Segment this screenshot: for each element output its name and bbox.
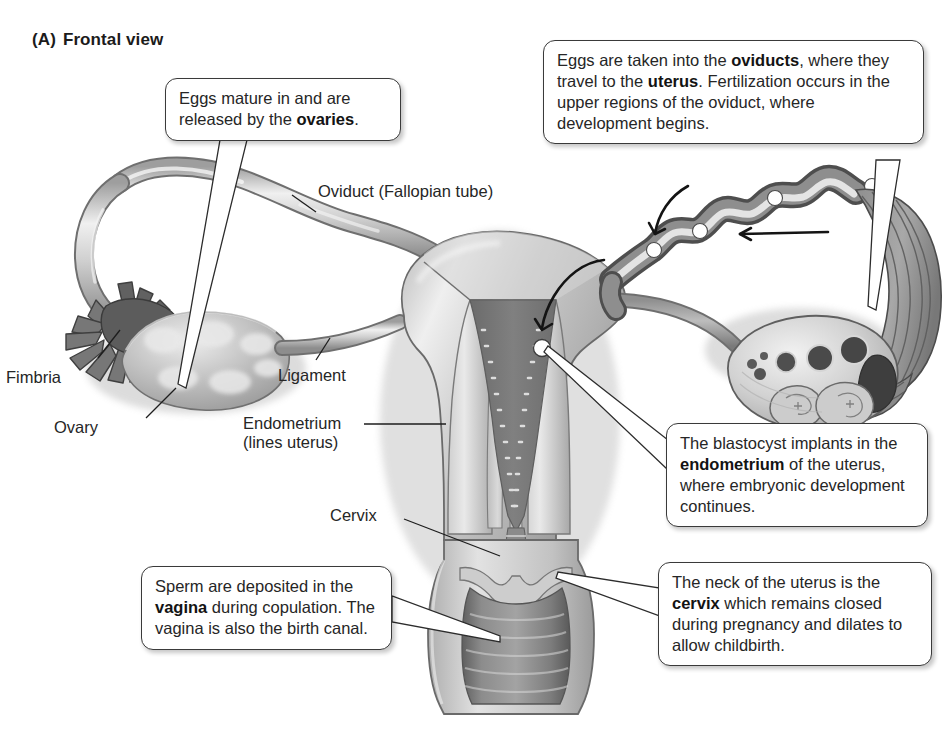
panel-title-text: Frontal view — [63, 30, 163, 49]
callout-vagina-text: Sperm are deposited in the vagina during… — [155, 577, 375, 637]
panel-title: (A)Frontal view — [32, 30, 163, 50]
right-ligament — [608, 300, 736, 346]
left-ligament — [282, 322, 400, 348]
label-fimbria: Fimbria — [6, 368, 61, 387]
ovum-marker — [647, 243, 662, 258]
label-ligament: Ligament — [278, 366, 346, 385]
panel-letter: (A) — [32, 30, 56, 49]
callout-oviducts-text: Eggs are taken into the oviducts, where … — [557, 51, 890, 132]
arrow-straight-left — [740, 232, 828, 234]
label-ovary: Ovary — [54, 418, 98, 437]
callout-blastocyst: The blastocyst implants in the endometri… — [666, 423, 928, 527]
label-cervix: Cervix — [330, 506, 377, 525]
callout-cervix-text: The neck of the uterus is the cervix whi… — [672, 573, 902, 654]
ovum-marker — [768, 191, 783, 206]
callout-ovaries: Eggs mature in and are released by the o… — [165, 78, 401, 141]
label-endometrium: Endometrium (lines uterus) — [243, 414, 368, 453]
callout-vagina: Sperm are deposited in the vagina during… — [141, 566, 392, 650]
right-oviduct — [610, 178, 856, 310]
callout-cervix: The neck of the uterus is the cervix whi… — [658, 562, 932, 666]
left-ovary — [122, 312, 289, 410]
callout-blastocyst-text: The blastocyst implants in the endometri… — [680, 434, 905, 515]
vaginal-canal — [462, 588, 570, 704]
ovum-marker — [693, 224, 708, 239]
label-endometrium-line1: Endometrium — [243, 414, 368, 433]
callout-ovaries-text: Eggs mature in and are released by the o… — [179, 89, 359, 128]
callout-oviducts: Eggs are taken into the oviducts, where … — [543, 40, 924, 144]
label-oviduct: Oviduct (Fallopian tube) — [318, 182, 493, 201]
right-ovary-cross-section — [728, 316, 898, 430]
figure-canvas: (A)Frontal view Oviduct (Fallopian tube)… — [0, 0, 951, 734]
label-endometrium-line2: (lines uterus) — [243, 433, 368, 452]
